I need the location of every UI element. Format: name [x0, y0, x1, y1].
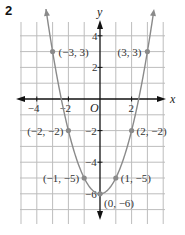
data-point [145, 49, 150, 54]
data-point [50, 49, 55, 54]
point-label: (−3, 3) [59, 46, 89, 59]
point-label: (2, −2) [137, 125, 167, 138]
data-point [66, 128, 71, 133]
origin-label: O [90, 101, 99, 115]
y-tick-label: 4 [92, 30, 98, 42]
point-label: (3, 3) [118, 46, 142, 59]
y-tick-label: 2 [92, 61, 98, 73]
point-label: (−2, −2) [27, 125, 64, 138]
x-tick-label: −4 [28, 102, 40, 114]
x-axis-label: x [169, 92, 176, 106]
y-tick-label: −4 [85, 156, 97, 168]
point-label: (−1, −5) [43, 172, 80, 185]
x-tick-label: 2 [129, 102, 135, 114]
data-point [82, 175, 87, 180]
point-label: (1, −5) [121, 172, 151, 185]
data-point [97, 191, 102, 196]
y-axis-label: y [96, 5, 103, 19]
parabola-chart: xyO−4−2242−2−4−6(−3, 3)(−2, −2)(−1, −5)(… [0, 0, 185, 235]
x-tick-label: −2 [59, 102, 71, 114]
curve-left-arrow-icon [44, 9, 50, 16]
x-axis-right-arrow-icon [157, 96, 166, 102]
y-axis-up-arrow-icon [97, 20, 103, 29]
y-tick-label: −2 [85, 125, 97, 137]
point-label: (0, −6) [104, 197, 134, 210]
y-axis-down-arrow-icon [97, 211, 103, 220]
data-point [129, 128, 134, 133]
data-point [113, 175, 118, 180]
curve-right-arrow-icon [150, 9, 156, 16]
